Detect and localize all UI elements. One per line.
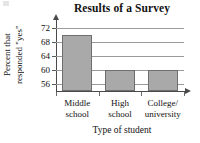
scan-artifact bbox=[3, 1, 9, 6]
bar bbox=[105, 70, 135, 91]
y-tick-label: 56 bbox=[41, 79, 50, 88]
gridline bbox=[56, 28, 184, 29]
chart-title: Results of a Survey bbox=[46, 2, 198, 14]
x-tick-mark bbox=[99, 92, 100, 96]
x-tick-mark bbox=[56, 92, 57, 96]
plot-area: 7268646056 bbox=[56, 24, 184, 91]
y-tick-label: 68 bbox=[41, 37, 50, 46]
bar bbox=[62, 35, 92, 91]
x-tick-mark bbox=[141, 92, 142, 96]
y-tick-mark bbox=[52, 56, 56, 57]
y-tick-mark bbox=[52, 84, 56, 85]
y-tick-label: 60 bbox=[41, 65, 50, 74]
y-tick-label: 72 bbox=[41, 23, 50, 32]
bar bbox=[148, 70, 178, 91]
y-tick-mark bbox=[52, 70, 56, 71]
x-category-label-line: College/ bbox=[137, 98, 188, 109]
y-axis-arrow-icon bbox=[53, 14, 59, 20]
x-tick-mark bbox=[184, 92, 185, 96]
y-axis-label: Percent that responded "yes" bbox=[0, 16, 26, 94]
x-category-label-line: university bbox=[137, 109, 188, 120]
x-axis-label: Type of student bbox=[46, 125, 198, 135]
survey-bar-chart: Results of a Survey Percent that respond… bbox=[0, 0, 200, 143]
x-axis-line bbox=[56, 91, 185, 92]
y-tick-mark bbox=[52, 28, 56, 29]
x-category-label: College/university bbox=[137, 98, 188, 119]
y-tick-label: 64 bbox=[41, 51, 50, 60]
x-axis-arrow-icon bbox=[185, 88, 191, 94]
y-tick-mark bbox=[52, 42, 56, 43]
y-axis-label-line-2: responded "yes" bbox=[13, 16, 26, 94]
